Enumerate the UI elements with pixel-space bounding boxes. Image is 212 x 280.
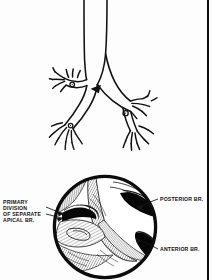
right-upper-twig-5b: [151, 98, 157, 101]
left-lower-twig-1b: [49, 132, 54, 137]
left-twig-6: [73, 69, 74, 77]
left-twig-1: [55, 72, 65, 79]
right-main-bronchus-outer: [106, 54, 131, 101]
left-twig-3b: [53, 86, 56, 88]
bronchial-tree-diagram: [0, 0, 212, 280]
right-lower-twig-4b: [144, 140, 148, 144]
right-lower-twig-3: [135, 133, 137, 144]
left-lower-twig-3: [66, 130, 69, 142]
right-upper-twig-3b: [142, 111, 146, 115]
trachea-left-wall: [84, 0, 87, 80]
anatomical-figure: PRIMARY DIVISION OF SEPARATE APICAL BR. …: [0, 0, 212, 280]
left-twig-4: [61, 85, 67, 91]
label-posterior-branch: POSTERIOR BR.: [160, 196, 203, 202]
left-twig-1b: [53, 68, 55, 72]
right-lower-twig-3b: [137, 144, 139, 150]
right-lower-twig-1: [126, 131, 131, 141]
right-lower-twig-4: [137, 131, 144, 139]
left-lower-twig-2b: [55, 138, 59, 145]
right-upper-twig-2b: [144, 105, 150, 107]
right-upper-twig-4b: [147, 91, 149, 97]
left-lower-twig-6: [52, 123, 63, 126]
left-lower-twig-4b: [72, 143, 74, 150]
right-lower-twig-5b: [148, 130, 153, 134]
right-lower-twig-5: [139, 126, 148, 130]
right-lower-twig-1b: [123, 141, 125, 148]
right-upper-twig-2: [132, 103, 144, 104]
left-twig-2b: [49, 79, 52, 80]
left-twig-5: [66, 69, 68, 77]
left-upper-lobe-trunk-bottom: [66, 85, 87, 87]
label-primary-division: PRIMARY DIVISION OF SEPARATE APICAL BR.: [3, 199, 49, 223]
label-anterior-branch: ANTERIOR BR.: [160, 246, 200, 252]
left-lower-twig-3b: [65, 142, 66, 149]
right-upper-twig-3: [133, 106, 142, 111]
left-lower-twig-5: [73, 129, 79, 139]
left-upper-lobe-trunk-top: [65, 78, 87, 81]
left-main-bronchus-outer: [65, 86, 87, 125]
ring-marker-left: [70, 82, 75, 87]
left-lower-twig-2: [59, 128, 67, 138]
page-edge-rule: [207, 0, 209, 280]
left-lower-twig-5b: [79, 138, 83, 143]
left-twig-7: [77, 71, 80, 78]
right-lower-twig-2: [131, 133, 132, 144]
ring-marker-left-lower: [68, 123, 73, 128]
left-twig-3: [55, 81, 64, 86]
right-upper-twig-1: [130, 99, 143, 101]
trachea-right-wall: [97, 0, 107, 85]
left-lower-twig-4: [71, 131, 72, 143]
bronchoscopic-view: [54, 176, 160, 280]
